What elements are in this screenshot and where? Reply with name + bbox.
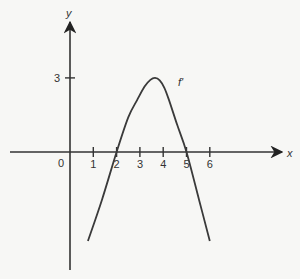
chart: x y 0 1234563 f' [0,0,300,279]
series-line-f-prime [88,78,210,241]
x-tick-label: 6 [207,158,213,170]
x-tick-label: 1 [90,158,96,170]
y-axis-label: y [65,7,73,19]
y-tick-label: 3 [54,72,60,84]
x-tick-label: 3 [137,158,143,170]
origin-label: 0 [58,157,64,169]
x-axis-label: x [286,147,293,159]
x-tick-label: 4 [160,158,166,170]
series-label: f' [178,76,184,88]
